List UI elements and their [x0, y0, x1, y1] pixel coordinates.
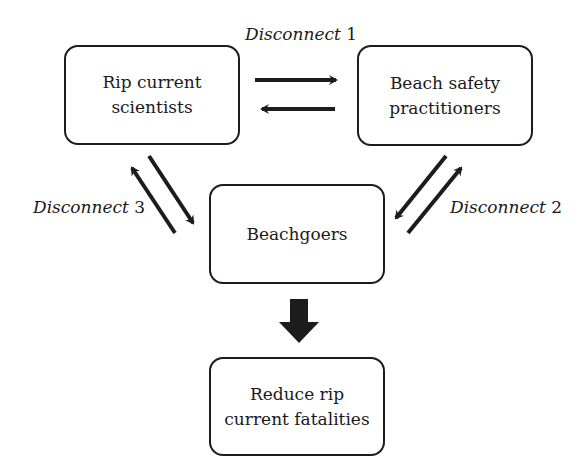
node-beach-safety-practitioners: Beach safety practitioners	[357, 45, 533, 146]
node-beachgoers: Beachgoers	[209, 184, 385, 284]
node-reduce-rip-current-fatalities: Reduce rip current fatalities	[209, 357, 385, 456]
node-label-line1: Reduce rip	[224, 382, 369, 407]
node-rip-current-scientists: Rip current scientists	[64, 45, 240, 145]
node-label-line2: practitioners	[389, 96, 500, 121]
node-label-line1: Beach safety	[389, 71, 500, 96]
label-disconnect-1: Disconnect 1	[245, 24, 357, 44]
label-number: 3	[134, 197, 145, 217]
label-number: 2	[551, 197, 562, 217]
label-disconnect-3: Disconnect 3	[33, 197, 145, 217]
arrow-scientists-to-beachgoers	[149, 156, 193, 223]
node-label-line2: current fatalities	[224, 407, 369, 432]
node-label-line1: Rip current	[102, 70, 201, 95]
label-word: Disconnect	[450, 197, 546, 217]
block-arrow-down-icon	[279, 299, 319, 343]
node-label: Beachgoers	[246, 222, 347, 247]
arrow-practitioners-to-beachgoers	[396, 156, 446, 218]
label-word: Disconnect	[33, 197, 129, 217]
label-disconnect-2: Disconnect 2	[450, 197, 562, 217]
label-number: 1	[346, 24, 357, 44]
label-word: Disconnect	[245, 24, 341, 44]
node-label-line2: scientists	[102, 95, 201, 120]
